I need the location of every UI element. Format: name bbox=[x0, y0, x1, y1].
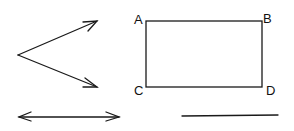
label-b: B bbox=[263, 12, 272, 25]
label-d: D bbox=[266, 84, 275, 97]
label-c: C bbox=[134, 84, 143, 97]
double-headed-arrow bbox=[19, 112, 119, 121]
label-a: A bbox=[134, 13, 143, 26]
angle-arrows bbox=[18, 21, 97, 87]
diagram-canvas bbox=[0, 0, 294, 131]
rectangle-abcd bbox=[146, 21, 262, 87]
line-segment bbox=[182, 115, 278, 116]
